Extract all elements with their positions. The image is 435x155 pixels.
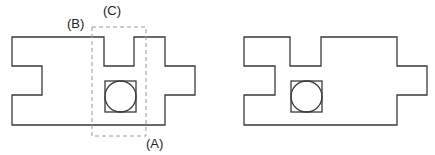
left-part-outline	[12, 37, 195, 125]
label-a: (A)	[146, 136, 163, 151]
right-part-circle	[291, 81, 322, 112]
label-b: (B)	[67, 16, 84, 31]
right-part	[244, 37, 427, 125]
diagram-canvas: (C) (B) (A)	[0, 0, 435, 155]
left-part-circle	[105, 81, 136, 112]
right-part-outline	[244, 37, 427, 125]
label-c: (C)	[103, 3, 121, 18]
left-part	[12, 27, 195, 136]
